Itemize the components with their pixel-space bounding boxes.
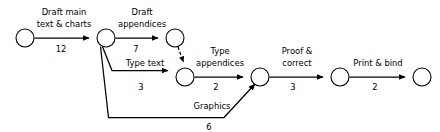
network-canvas: Draft main text & charts 12 Draft append… xyxy=(0,0,440,132)
label-draft-appendices-line2: appendices xyxy=(118,19,166,29)
duration-draft-appendices: 7 xyxy=(133,44,138,54)
node-after-draft-main[interactable] xyxy=(97,29,115,47)
label-type-text: Type text xyxy=(125,58,165,68)
label-draft-main-text-and-charts-line1: Draft main xyxy=(42,7,87,17)
activity-network-diagram: Draft main text & charts 12 Draft append… xyxy=(0,0,440,132)
label-type-appendices-line1: Type xyxy=(209,46,229,56)
node-after-draft-appendices[interactable] xyxy=(166,29,184,47)
duration-print-and-bind: 2 xyxy=(372,82,377,92)
duration-proof-and-correct: 3 xyxy=(290,82,295,92)
label-graphics: Graphics xyxy=(194,101,231,111)
node-finish[interactable] xyxy=(413,68,431,86)
node-start[interactable] xyxy=(16,29,34,47)
label-print-and-bind: Print & bind xyxy=(353,58,402,68)
duration-graphics: 6 xyxy=(206,122,211,132)
label-draft-appendices-line1: Draft xyxy=(131,7,153,17)
label-type-appendices-line2: appendices xyxy=(196,58,244,68)
label-proof-and-correct-line2: correct xyxy=(282,58,312,68)
duration-draft-main-text-and-charts: 12 xyxy=(56,44,67,54)
node-after-proof-correct[interactable] xyxy=(331,68,349,86)
label-proof-and-correct-line1: Proof & xyxy=(282,46,313,56)
label-draft-main-text-and-charts-line2: text & charts xyxy=(37,19,92,29)
edge-dummy-dashed xyxy=(178,47,184,62)
duration-type-appendices: 2 xyxy=(213,82,218,92)
duration-type-text: 3 xyxy=(138,82,143,92)
node-after-type-appendices[interactable] xyxy=(251,68,269,86)
node-after-type-text[interactable] xyxy=(176,68,194,86)
